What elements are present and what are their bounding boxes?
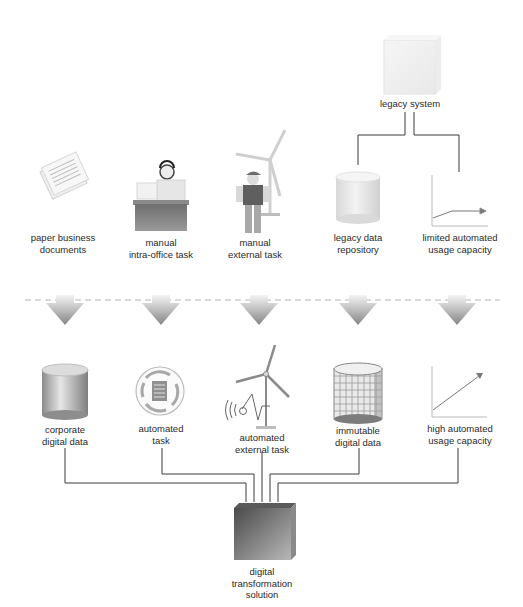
legacy-system-box (384, 35, 441, 94)
automated-cycle-document-icon (136, 367, 184, 415)
office-worker-icon (133, 161, 189, 231)
database-cylinder-icon (336, 172, 380, 224)
field-worker-wind-turbine-icon (236, 130, 285, 233)
limited-automated-usage-capacity-label: limited automatedusage capacity (405, 232, 515, 255)
digital-transformation-solution-label: digitaltransformationsolution (207, 566, 317, 601)
flat-growth-chart-icon (432, 175, 488, 226)
paper-documents-icon (39, 152, 90, 199)
legacy-connectors (358, 112, 459, 172)
legacy-data-repository-label: legacy datarepository (303, 232, 413, 255)
digital-transformation-solution-box (234, 503, 296, 560)
rising-growth-chart-icon (432, 366, 487, 417)
immutable-digital-data-label: immutabledigital data (303, 425, 413, 448)
manual-external-task-label: manualexternal task (200, 237, 310, 260)
down-arrow-icon (339, 295, 377, 325)
legacy-system-label: legacy system (355, 98, 465, 110)
paper-business-documents-label: paper businessdocuments (8, 232, 118, 255)
solution-connectors (65, 448, 458, 502)
high-automated-usage-capacity-label: high automatedusage capacity (405, 423, 515, 446)
shaded-database-icon (42, 364, 88, 420)
wind-turbine-sensor-icon (226, 345, 290, 429)
automated-external-task-label: automatedexternal task (207, 432, 317, 455)
diagram-canvas (0, 0, 523, 607)
grid-database-icon (334, 363, 382, 424)
automated-task-label: automatedtask (106, 423, 216, 446)
corporate-digital-data-label: corporatedigital data (10, 424, 120, 447)
